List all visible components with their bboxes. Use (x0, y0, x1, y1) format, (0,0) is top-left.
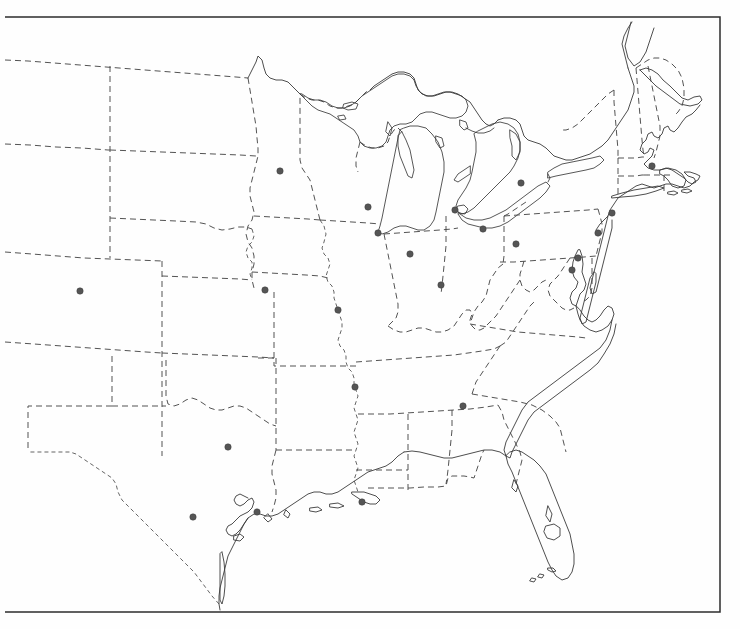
city-dot-dallas (225, 444, 231, 450)
lake-okeechobee (544, 524, 560, 540)
border-new-york-massachusetts (618, 157, 648, 158)
city-dot-pittsburgh (513, 241, 519, 247)
border-oklahoma-panhandle (112, 356, 166, 406)
florida-inlet-east (546, 506, 552, 522)
corpus-christi-bay (234, 534, 244, 541)
city-dot-washington-dc (569, 267, 575, 273)
border-texas-louisiana (272, 450, 276, 512)
lake-of-the-woods (248, 56, 300, 94)
city-dot-philadelphia (595, 230, 601, 236)
border-nebraska-kansas (162, 276, 252, 280)
border-new-york-vermont (614, 90, 618, 158)
lake-ontario (548, 156, 604, 178)
florida-gulf-coast (404, 450, 506, 458)
border-wisconsin-michigan-up (360, 128, 398, 148)
city-dot-cincinnati (438, 282, 444, 288)
border-kentucky-ohio-river (388, 310, 472, 332)
city-dot-houston (254, 509, 260, 515)
city-dot-milwaukee (365, 204, 371, 210)
ontario-shore (498, 68, 634, 160)
city-dot-cleveland (480, 226, 486, 232)
city-dot-st-louis (335, 307, 341, 313)
lake-superior (300, 74, 468, 148)
city-dot-chicago (375, 230, 381, 236)
florida-peninsula (506, 450, 574, 580)
border-pennsylvania-maryland (500, 256, 596, 262)
border-florida-north (368, 450, 484, 488)
city-dot-san-antonio (190, 514, 196, 520)
border-wisconsin-upper-peninsula (356, 142, 360, 172)
city-dot-indianapolis (407, 251, 413, 257)
border-montana-wyoming (5, 144, 110, 150)
apostle-islands (338, 115, 346, 120)
carolina-coastline (504, 320, 616, 458)
border-maryland-virginia (548, 258, 574, 310)
border-colorado-south (5, 342, 162, 353)
border-new-york-north (560, 90, 614, 130)
rio-grande-border (28, 452, 219, 604)
green-bay (398, 132, 414, 178)
border-wisconsin-illinois (320, 220, 380, 224)
border-oklahoma-texas (166, 360, 276, 426)
border-georgia-alabama (446, 410, 452, 484)
border-vermont-new-hampshire (636, 68, 644, 157)
city-dot-boston (649, 163, 655, 169)
border-iowa-missouri (252, 272, 328, 278)
state-borders-group (5, 58, 684, 512)
city-dot-detroit (452, 207, 458, 213)
border-pennsylvania-new-york (504, 209, 598, 216)
texas-gulf-coast (219, 518, 248, 610)
border-kansas-oklahoma (162, 353, 274, 358)
canada-border-west (5, 60, 248, 78)
city-dot-buffalo (518, 180, 524, 186)
border-virginia-west-virginia (470, 280, 520, 330)
border-virginia-north-carolina (470, 324, 586, 338)
city-dot-minneapolis-st-paul (277, 168, 283, 174)
border-ohio-pennsylvania (503, 216, 504, 264)
border-illinois-indiana (384, 234, 398, 326)
mid-atlantic-coastline (590, 216, 612, 294)
mississippi-river-border (320, 220, 358, 492)
border-north-south-dakota (110, 150, 256, 156)
border-kentucky-virginia (500, 302, 534, 346)
lake-superior-north-shore (370, 72, 498, 126)
tampa-bay-inlet (512, 480, 518, 492)
border-new-york-connecticut (618, 175, 648, 176)
border-south-dakota-nebraska (110, 218, 252, 230)
saginaw-bay (454, 166, 470, 182)
city-dot-atlanta (460, 403, 466, 409)
border-ohio-west-virginia (470, 264, 503, 324)
city-dots-group (77, 163, 655, 520)
border-tennessee-north-carolina (472, 346, 500, 394)
border-delaware (582, 258, 592, 302)
nantucket-islands (668, 189, 692, 195)
city-dot-new-york (609, 210, 615, 216)
border-maryland-west-virginia (520, 261, 546, 292)
city-dot-new-orleans (359, 499, 365, 505)
map-illustration (0, 0, 740, 629)
border-tennessee-south (358, 405, 498, 414)
long-island (612, 186, 664, 198)
border-maine-canada (636, 58, 684, 116)
city-dot-memphis (352, 384, 358, 390)
mississippi-delta (352, 492, 380, 504)
border-minnesota-iowa (254, 216, 320, 220)
gulf-coastline (226, 452, 404, 536)
louisiana-barrier-islands (310, 503, 344, 512)
map-canvas (0, 0, 740, 629)
city-dot-baltimore (575, 255, 581, 261)
border-michigan-ohio-indiana (384, 228, 458, 234)
border-north-south-carolina (472, 394, 566, 452)
city-dot-kansas-city (262, 287, 268, 293)
border-texas-new-mexico (28, 406, 112, 452)
straits-of-mackinac (466, 128, 494, 133)
border-kentucky-tennessee (356, 346, 500, 362)
border-minnesota-wisconsin (300, 94, 320, 220)
atlantic-coastline (625, 22, 702, 106)
city-dot-denver (77, 288, 83, 294)
map-frame (5, 17, 720, 612)
border-wyoming-colorado (5, 252, 162, 261)
